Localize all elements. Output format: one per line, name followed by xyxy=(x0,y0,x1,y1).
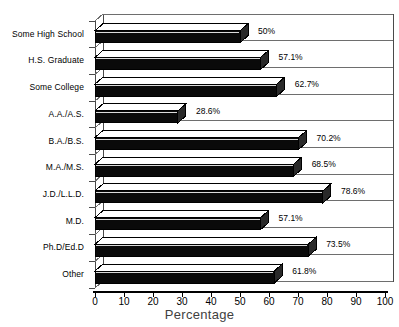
value-label: 57.1% xyxy=(279,213,303,223)
x-tick-label: 30 xyxy=(176,296,187,307)
x-tick-label: 20 xyxy=(147,296,158,307)
x-tick-label: 90 xyxy=(350,296,361,307)
bar-9 xyxy=(95,264,282,283)
x-tick-label: 40 xyxy=(205,296,216,307)
bar-6 xyxy=(95,184,331,203)
bar-1 xyxy=(95,50,269,69)
bar-5 xyxy=(95,157,302,176)
x-tick-label: 10 xyxy=(118,296,129,307)
bar-3 xyxy=(95,104,186,123)
bar-chart: Some High SchoolH.S. GraduateSome Colleg… xyxy=(0,0,399,327)
value-label: 61.8% xyxy=(292,266,316,276)
bar-8 xyxy=(95,237,316,256)
x-tick-label: 80 xyxy=(321,296,332,307)
bar-0 xyxy=(95,24,248,43)
value-label: 57.1% xyxy=(279,52,303,62)
value-label: 73.5% xyxy=(326,239,350,249)
bar-2 xyxy=(95,77,285,96)
value-label: 78.6% xyxy=(341,186,365,196)
value-label: 62.7% xyxy=(295,79,319,89)
bar-7 xyxy=(95,211,269,230)
x-tick-label: 70 xyxy=(292,296,303,307)
x-tick-label: 0 xyxy=(92,296,98,307)
bar-4 xyxy=(95,131,307,150)
value-label: 50% xyxy=(258,26,275,36)
x-tick-label: 60 xyxy=(263,296,274,307)
plot-area xyxy=(0,0,399,327)
value-label: 68.5% xyxy=(312,159,336,169)
x-tick-label: 50 xyxy=(234,296,245,307)
x-axis-title: Percentage xyxy=(0,307,399,322)
value-label: 28.6% xyxy=(196,106,220,116)
x-tick-label: 100 xyxy=(377,296,394,307)
value-label: 70.2% xyxy=(317,133,341,143)
